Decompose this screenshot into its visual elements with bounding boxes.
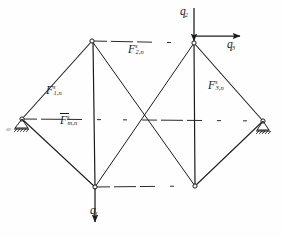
load-label-q1: q1: [90, 205, 98, 217]
load-label-q2: q2: [180, 6, 188, 18]
joint-top-right: [192, 41, 196, 45]
figure-canvas: Fs1,n Fs2,n Fs3,n Fsm,n q1 q2 q3 //// //…: [0, 0, 284, 237]
joint-bottom-right: [193, 184, 197, 188]
load-label-q3: q3: [227, 39, 235, 51]
member-label-F2n-sub: 2,n: [136, 48, 144, 55]
member-bottom-right-right-support: [195, 121, 263, 186]
member-left-support-top-left: [22, 41, 92, 119]
member-label-F3n-base: F: [208, 79, 215, 91]
joint-top-left: [90, 39, 94, 43]
chord-bottom: [95, 186, 195, 187]
member-label-Fmn-base: F: [60, 114, 67, 126]
member-label-F1n-sub: 1,n: [54, 89, 62, 96]
left-support-hatch-label: ////: [6, 127, 10, 132]
member-label-F2n: Fs2,n: [128, 43, 144, 56]
member-label-F3n: Fs3,n: [208, 79, 224, 92]
load-label-q1-sub: 1: [95, 210, 98, 217]
load-label-q3-sub: 3: [232, 44, 235, 51]
member-label-F3n-sub: 3,n: [216, 84, 224, 91]
member-label-F1n-base: F: [46, 84, 53, 96]
member-top-right-right-support: [194, 43, 263, 121]
member-label-F1n: Fs1,n: [46, 84, 62, 97]
member-label-Fmn-sub: m,n: [68, 119, 78, 126]
member-left-support-bottom-left: [22, 119, 95, 187]
member-label-F2n-base: F: [128, 43, 135, 55]
overbar-rule: [60, 113, 69, 114]
load-label-q2-sub: 2: [185, 11, 188, 18]
member-label-Fmn: Fsm,n: [60, 114, 284, 127]
right-support-hatch-label: ////: [261, 129, 265, 134]
